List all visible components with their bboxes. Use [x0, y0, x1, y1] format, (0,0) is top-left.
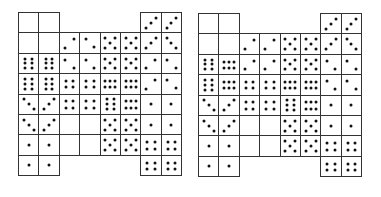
pip-dot	[289, 145, 292, 148]
pip-dot	[84, 38, 87, 41]
pip-dot	[272, 107, 275, 110]
pip-dot	[265, 101, 268, 104]
pip-dot	[355, 47, 358, 50]
pip-dot	[355, 17, 358, 20]
pip-dot	[252, 80, 255, 83]
pip-dot	[64, 106, 67, 109]
die-cell	[161, 73, 182, 94]
pip-dot	[51, 82, 54, 85]
pip-dot	[252, 59, 255, 62]
pip-dot	[72, 79, 75, 82]
pip-dot	[285, 99, 288, 102]
pip-dot	[153, 141, 156, 144]
pip-dot	[124, 86, 127, 89]
die-cell	[120, 94, 141, 115]
pip-dot	[51, 78, 54, 81]
pip-dot	[27, 103, 30, 106]
pip-dot	[166, 167, 169, 170]
pip-dot	[212, 109, 215, 112]
pip-dot	[350, 22, 353, 25]
pip-dot	[22, 118, 25, 121]
pip-dot	[114, 46, 117, 49]
pip-dot	[294, 47, 297, 50]
pip-dot	[333, 142, 336, 145]
pip-dot	[166, 79, 169, 82]
pip-dot	[326, 148, 329, 151]
pip-dot	[284, 119, 287, 122]
pip-dot	[244, 107, 247, 110]
die-cell	[218, 156, 239, 177]
pip-dot	[272, 87, 275, 90]
pip-dot	[134, 67, 137, 70]
pip-dot	[210, 83, 213, 86]
pip-dot	[104, 139, 107, 142]
die-cell	[38, 155, 59, 176]
pip-dot	[170, 103, 173, 106]
pip-dot	[207, 165, 210, 168]
die-cell	[341, 54, 362, 75]
pip-dot	[51, 62, 54, 65]
pip-dot	[243, 68, 246, 71]
pip-dot	[24, 78, 27, 81]
pip-dot	[294, 149, 297, 152]
pip-dot	[294, 129, 297, 132]
die-cell	[140, 12, 161, 33]
pip-dot	[146, 161, 149, 164]
pip-dot	[284, 68, 287, 71]
pip-dot	[289, 87, 292, 90]
pip-dot	[129, 106, 132, 109]
pip-dot	[284, 87, 287, 90]
pip-dot	[145, 67, 148, 70]
die-cell	[140, 134, 161, 155]
pip-dot	[334, 38, 337, 41]
pip-dot	[294, 38, 297, 41]
pip-dot	[105, 98, 108, 101]
pip-dot	[345, 27, 348, 30]
pip-dot	[124, 128, 127, 131]
die-cell	[79, 73, 100, 94]
pip-dot	[309, 107, 312, 110]
pip-dot	[314, 149, 317, 152]
pip-dot	[51, 67, 54, 70]
pip-dot	[30, 67, 33, 70]
pip-dot	[150, 123, 153, 126]
die-cell	[300, 54, 321, 75]
pip-dot	[223, 129, 226, 132]
pip-dot	[114, 128, 117, 131]
pip-dot	[43, 108, 46, 111]
pip-dot	[314, 58, 317, 61]
pip-dot	[223, 109, 226, 112]
pip-dot	[104, 67, 107, 70]
pip-dot	[109, 86, 112, 89]
pip-dot	[109, 144, 112, 147]
die-cell	[198, 115, 219, 136]
die-cell	[100, 53, 121, 74]
pip-dot	[284, 129, 287, 132]
die-cell	[59, 114, 80, 135]
die-cell	[341, 95, 362, 116]
pip-dot	[145, 26, 148, 29]
die-cell	[18, 134, 39, 155]
pip-dot	[24, 62, 27, 65]
pip-dot	[146, 141, 149, 144]
pip-dot	[174, 87, 177, 90]
pip-dot	[109, 123, 112, 126]
pip-dot	[30, 57, 33, 60]
die-cell	[341, 74, 362, 95]
pip-dot	[166, 141, 169, 144]
pip-dot	[30, 62, 33, 65]
die-cell	[259, 74, 280, 95]
pip-dot	[124, 118, 127, 121]
die-cell	[218, 74, 239, 95]
pip-dot	[284, 149, 287, 152]
pip-dot	[170, 123, 173, 126]
die-cell	[59, 94, 80, 115]
pip-dot	[354, 142, 357, 145]
pip-dot	[150, 21, 153, 24]
die-cell	[59, 73, 80, 94]
pip-dot	[134, 118, 137, 121]
pip-dot	[304, 107, 307, 110]
pip-dot	[330, 124, 333, 127]
pip-dot	[114, 37, 117, 40]
pip-dot	[326, 162, 329, 165]
